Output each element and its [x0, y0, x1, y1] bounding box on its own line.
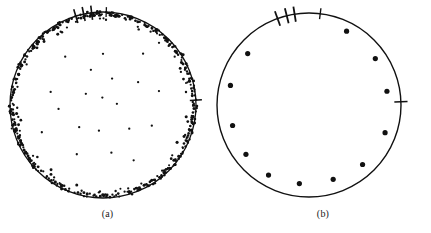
- data-point: [195, 99, 197, 101]
- data-point: [86, 13, 88, 15]
- data-point: [135, 187, 138, 190]
- data-point: [150, 179, 153, 182]
- data-point: [109, 196, 112, 199]
- data-point: [117, 192, 120, 195]
- data-point: [182, 147, 184, 149]
- data-point: [15, 81, 18, 84]
- data-point: [127, 16, 129, 18]
- data-point: [137, 81, 139, 83]
- data-point: [86, 192, 89, 195]
- data-point: [228, 83, 233, 88]
- data-point: [83, 195, 85, 197]
- data-point: [13, 118, 15, 120]
- data-point: [92, 13, 94, 15]
- data-point: [163, 171, 165, 173]
- data-point: [24, 151, 27, 154]
- circular-scatter-plot-a: [0, 0, 215, 233]
- data-point: [128, 190, 131, 193]
- data-point: [75, 183, 78, 186]
- data-point: [27, 49, 29, 51]
- data-point: [19, 141, 21, 143]
- data-point: [119, 188, 121, 190]
- data-point: [76, 153, 78, 155]
- data-point: [114, 190, 116, 192]
- data-point: [177, 157, 180, 160]
- data-point: [13, 88, 16, 91]
- data-point: [33, 46, 36, 49]
- data-point: [184, 67, 187, 70]
- data-point: [171, 46, 173, 48]
- data-point: [102, 53, 104, 55]
- data-point: [13, 128, 16, 131]
- data-point: [195, 107, 197, 109]
- data-point: [190, 118, 192, 120]
- axis-tick-4: [320, 8, 321, 19]
- data-point: [37, 170, 39, 172]
- data-point: [50, 173, 53, 176]
- data-point: [113, 195, 115, 197]
- data-point: [180, 61, 183, 64]
- data-point: [145, 24, 148, 27]
- data-point: [17, 143, 20, 146]
- data-point: [17, 137, 20, 140]
- bounding-circle: [217, 13, 401, 197]
- data-point: [190, 120, 193, 123]
- data-point: [65, 20, 67, 22]
- data-point: [183, 135, 186, 138]
- data-point: [10, 96, 13, 99]
- data-point: [19, 130, 21, 132]
- data-point: [57, 26, 60, 29]
- data-point: [12, 103, 14, 105]
- data-point: [174, 163, 177, 166]
- data-point: [373, 56, 378, 61]
- data-point: [168, 164, 170, 166]
- data-point: [46, 175, 48, 177]
- data-point: [98, 130, 100, 132]
- data-point: [77, 192, 79, 194]
- data-point: [66, 26, 68, 28]
- data-point: [191, 93, 193, 95]
- data-point: [17, 123, 20, 126]
- data-point: [61, 31, 63, 33]
- data-point: [331, 177, 336, 182]
- data-point: [137, 28, 139, 30]
- data-point: [245, 51, 250, 56]
- data-point: [11, 94, 14, 97]
- data-point: [174, 50, 177, 53]
- data-point: [111, 194, 113, 196]
- data-point: [35, 168, 37, 170]
- data-point: [176, 141, 179, 144]
- data-point: [186, 120, 189, 123]
- data-point: [179, 67, 182, 70]
- data-point: [191, 94, 193, 96]
- data-point: [27, 155, 30, 158]
- data-point: [191, 132, 194, 135]
- data-point: [156, 175, 158, 177]
- data-point: [128, 127, 130, 129]
- data-point: [61, 21, 63, 23]
- data-point: [188, 80, 191, 83]
- data-point: [40, 169, 43, 172]
- data-point: [102, 17, 104, 19]
- data-point: [131, 16, 134, 19]
- data-point: [84, 14, 86, 16]
- data-point: [51, 181, 54, 184]
- data-point: [158, 42, 160, 44]
- data-point: [243, 152, 248, 157]
- data-point: [134, 20, 136, 22]
- data-point: [75, 21, 77, 23]
- data-point: [169, 167, 172, 170]
- data-point: [180, 59, 182, 61]
- data-point: [8, 105, 11, 108]
- data-point: [22, 146, 24, 148]
- data-point: [88, 15, 91, 18]
- data-point: [25, 63, 27, 65]
- data-point: [11, 127, 13, 129]
- panel-a: (a): [0, 0, 215, 233]
- data-point: [68, 18, 70, 20]
- data-point: [123, 190, 125, 192]
- data-point: [144, 22, 146, 24]
- data-point: [20, 143, 22, 145]
- data-point: [19, 119, 22, 122]
- data-point: [98, 191, 100, 193]
